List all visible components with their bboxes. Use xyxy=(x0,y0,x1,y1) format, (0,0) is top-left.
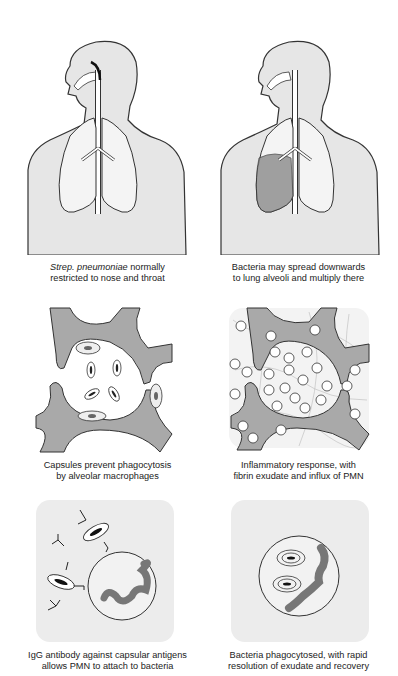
phagocytosis-illustration xyxy=(199,490,398,646)
panel-phagocytosed: Bacteria phagocytosed, with rapid resolu… xyxy=(199,490,398,676)
panel-lung-spread: Bacteria may spread downwards to lung al… xyxy=(199,0,398,290)
caption-nasopharynx: Strep. pneumoniae normally restricted to… xyxy=(8,262,207,284)
caption-inflammation: Inflammatory response, with fibrin exuda… xyxy=(199,460,398,482)
infected-lobe xyxy=(256,154,293,212)
panel-igg-antibody: IgG antibody against capsular antigens a… xyxy=(0,490,199,676)
panel-capsules: Capsules prevent phagocytosis by alveola… xyxy=(0,290,199,490)
caption-phagocytosed: Bacteria phagocytosed, with rapid resolu… xyxy=(199,650,398,672)
caption-capsules: Capsules prevent phagocytosis by alveola… xyxy=(8,460,207,482)
caption-lung-spread: Bacteria may spread downwards to lung al… xyxy=(199,262,398,284)
alveolus-illustration xyxy=(0,290,199,460)
torso-infected-illustration xyxy=(199,0,398,255)
caption-igg-antibody: IgG antibody against capsular antigens a… xyxy=(8,650,207,672)
igg-illustration xyxy=(0,490,199,646)
torso-illustration xyxy=(0,0,199,255)
caption-italic: Strep. pneumoniae xyxy=(50,262,128,272)
panel-inflammation: Inflammatory response, with fibrin exuda… xyxy=(199,290,398,490)
inflammation-illustration xyxy=(199,290,398,460)
panel-nasopharynx: Strep. pneumoniae normally restricted to… xyxy=(0,0,199,290)
